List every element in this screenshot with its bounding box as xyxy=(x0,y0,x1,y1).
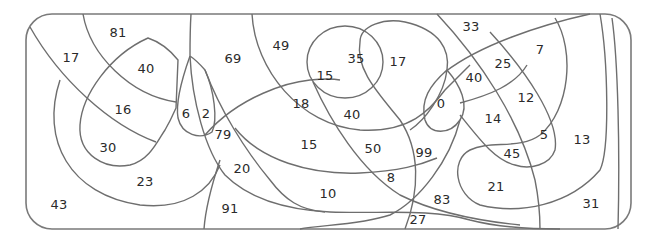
region-number-label: 91 xyxy=(221,201,238,216)
region-number-label: 8 xyxy=(387,170,396,185)
region-number-label: 40 xyxy=(465,70,482,85)
region-number-label: 99 xyxy=(415,145,432,160)
curve-line xyxy=(235,128,437,173)
region-number-label: 14 xyxy=(484,111,501,126)
region-number-label: 27 xyxy=(409,212,426,227)
region-number-label: 45 xyxy=(503,146,520,161)
region-number-label: 33 xyxy=(462,19,479,34)
region-number-label: 50 xyxy=(364,141,381,156)
region-number-label: 81 xyxy=(109,25,126,40)
region-number-label: 6 xyxy=(182,106,191,121)
region-number-label: 7 xyxy=(536,42,545,57)
region-number-label: 12 xyxy=(517,90,534,105)
curve-line xyxy=(359,42,415,229)
region-number-label: 2 xyxy=(202,106,211,121)
curve-line xyxy=(307,26,383,98)
region-number-label: 17 xyxy=(62,50,79,65)
region-number-label: 21 xyxy=(487,179,504,194)
region-number-label: 40 xyxy=(343,107,360,122)
curve-line xyxy=(612,18,619,229)
region-number-label: 40 xyxy=(137,61,154,76)
curve-line xyxy=(458,14,607,209)
region-number-label: 20 xyxy=(233,161,250,176)
region-number-label: 35 xyxy=(347,51,364,66)
region-number-label: 17 xyxy=(389,54,406,69)
region-number-label: 30 xyxy=(99,140,116,155)
region-number-label: 23 xyxy=(136,174,153,189)
region-number-label: 83 xyxy=(433,192,450,207)
region-number-label: 0 xyxy=(437,96,446,111)
region-number-label: 43 xyxy=(50,197,67,212)
curve-line xyxy=(252,14,470,130)
region-number-label: 15 xyxy=(300,137,317,152)
curve-line xyxy=(83,14,176,102)
region-number-label: 69 xyxy=(224,51,241,66)
region-number-label: 18 xyxy=(292,96,309,111)
region-number-label: 15 xyxy=(316,68,333,83)
region-number-label: 31 xyxy=(582,196,599,211)
region-number-label: 13 xyxy=(573,132,590,147)
region-number-label: 25 xyxy=(494,56,511,71)
diagram-lines xyxy=(0,0,649,241)
region-number-label: 49 xyxy=(272,38,289,53)
region-puzzle-diagram: 8117401662302343697920914915351718401550… xyxy=(0,0,649,241)
region-number-label: 79 xyxy=(214,127,231,142)
region-number-label: 10 xyxy=(319,186,336,201)
region-number-label: 5 xyxy=(540,127,549,142)
region-number-label: 16 xyxy=(114,102,131,117)
